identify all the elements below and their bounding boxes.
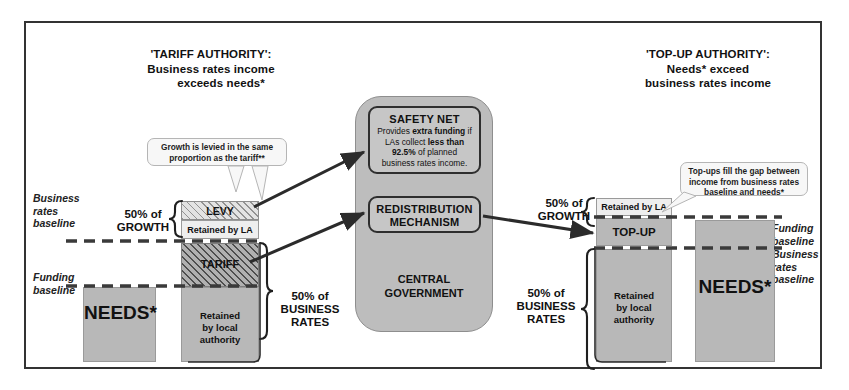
right-heading-line1: 'TOP-UP AUTHORITY': — [598, 47, 818, 61]
left-retained-local-authority-segment: Retained by local authority — [181, 287, 259, 362]
right-annot-business-rates: 50% of BUSINESS RATES — [508, 287, 584, 326]
safety-net-bold-2: less than — [428, 137, 464, 147]
safety-net-body: Provides extra funding if LAs collect le… — [376, 126, 473, 168]
left-axis-business-rates-baseline: Business rates baseline — [33, 192, 99, 230]
right-needs-bar: NEEDS* — [695, 220, 775, 362]
central-government-line1: CENTRAL — [355, 272, 493, 286]
left-needs-bar-label: NEEDS* — [84, 302, 155, 324]
left-heading-line3: exceeds needs* — [116, 76, 326, 90]
right-axis-funding-baseline: Funding baseline — [772, 222, 842, 247]
levy-segment: LEVY — [181, 201, 259, 220]
right-retained-local-authority-label: Retained by local authority — [597, 290, 671, 326]
safety-net-text-1: Provides — [377, 126, 412, 136]
right-heading-line3: business rates income — [598, 76, 818, 90]
safety-net-bold-3: 92.5% — [392, 147, 416, 157]
safety-net-title: SAFETY NET — [376, 113, 473, 126]
right-heading-line2: Needs* exceed — [598, 62, 818, 76]
redistribution-title-line1: REDISTRIBUTION — [370, 203, 479, 216]
safety-net-bold-1: extra funding — [412, 126, 465, 136]
right-axis-business-rates-baseline: Business rates baseline — [772, 248, 842, 286]
redistribution-title-line2: MECHANISM — [370, 216, 479, 229]
right-callout: Top-ups fill the gap between income from… — [680, 162, 808, 196]
left-annot-business-rates: 50% of BUSINESS RATES — [272, 290, 348, 329]
redistribution-mechanism-box: REDISTRIBUTION MECHANISM — [368, 196, 481, 233]
left-retained-by-la-label: Retained by LA — [182, 225, 258, 235]
left-annot-growth: 50% of GROWTH — [112, 208, 174, 234]
right-retained-by-la-label: Retained by LA — [597, 202, 671, 212]
top-up-segment: TOP-UP — [596, 218, 672, 246]
safety-net-box: SAFETY NET Provides extra funding if LAs… — [368, 106, 481, 174]
diagram-canvas: 'TARIFF AUTHORITY': Business rates incom… — [0, 0, 849, 390]
left-heading-line1: 'TARIFF AUTHORITY': — [106, 47, 316, 61]
tariff-label: TARIFF — [182, 258, 258, 270]
top-up-label: TOP-UP — [597, 226, 671, 238]
right-annot-growth: 50% of GROWTH — [533, 197, 595, 223]
tariff-segment: TARIFF — [181, 243, 259, 287]
right-needs-bar-label: NEEDS* — [696, 276, 774, 298]
left-needs-bar: NEEDS* — [83, 287, 156, 362]
right-retained-local-authority-segment: Retained by local authority — [596, 249, 672, 362]
levy-label: LEVY — [182, 205, 258, 217]
left-callout: Growth is levied in the same proportion … — [147, 138, 287, 166]
right-retained-by-la-segment: Retained by LA — [596, 198, 672, 216]
central-government-line2: GOVERNMENT — [355, 286, 493, 300]
left-retained-by-la-segment: Retained by LA — [181, 220, 259, 239]
left-heading-line2: Business rates income — [106, 62, 316, 76]
left-retained-local-authority-label: Retained by local authority — [182, 310, 258, 346]
